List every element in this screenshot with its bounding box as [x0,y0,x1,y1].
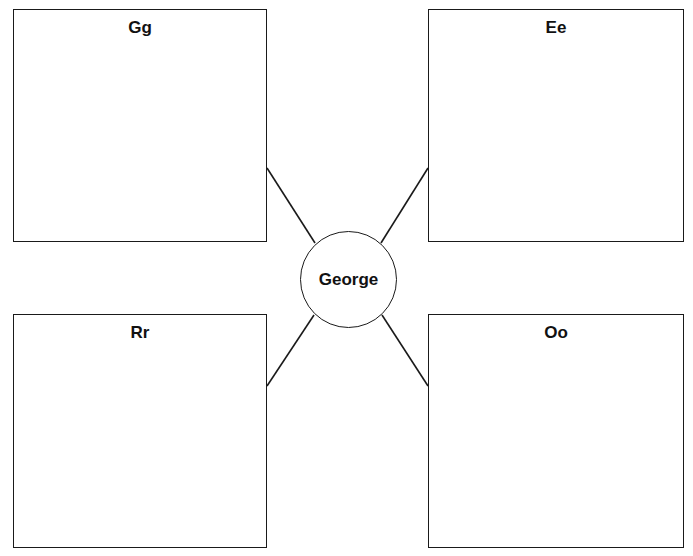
center-circle: George [300,231,397,328]
box-oo: Oo [428,314,684,548]
box-gg: Gg [13,9,267,242]
box-label-ee: Ee [429,18,683,38]
web-organizer-diagram: Gg Ee Rr Oo George [0,0,693,556]
box-label-gg: Gg [14,18,266,38]
box-label-oo: Oo [429,323,683,343]
connector-gg [267,168,315,243]
center-label: George [319,270,379,290]
connector-ee [381,168,428,243]
connector-oo [382,315,428,386]
box-label-rr: Rr [14,323,266,343]
box-ee: Ee [428,9,684,242]
connector-rr [267,315,314,386]
box-rr: Rr [13,314,267,548]
